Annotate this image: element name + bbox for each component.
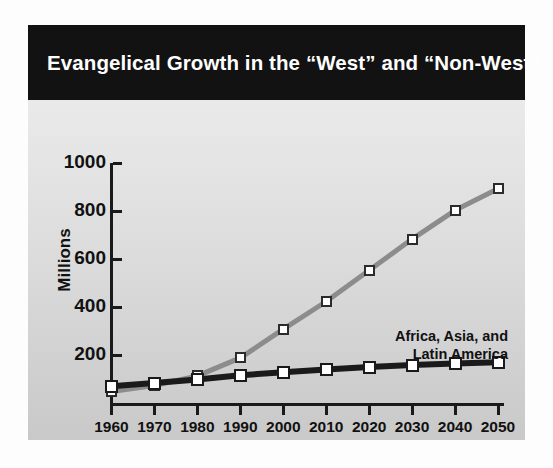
data-point-europe-north-america-pacific [234,369,247,382]
data-point-africa-asia-latin-america [493,183,504,194]
chart-figure: Evangelical Growth in the “West” and “No… [28,25,525,440]
data-point-europe-north-america-pacific [191,373,204,386]
series-lines [28,100,525,440]
data-point-africa-asia-latin-america [450,205,461,216]
data-point-africa-asia-latin-america [364,265,375,276]
chart-title-banner: Evangelical Growth in the “West” and “No… [28,25,525,100]
data-point-europe-north-america-pacific [277,366,290,379]
data-point-europe-north-america-pacific [105,380,118,393]
data-point-africa-asia-latin-america [235,352,246,363]
data-point-europe-north-america-pacific [320,363,333,376]
plot-area: Millions 2004006008001000 19601970198019… [28,100,525,440]
data-point-africa-asia-latin-america [321,296,332,307]
data-point-europe-north-america-pacific [148,377,161,390]
data-point-africa-asia-latin-america [407,234,418,245]
page-title: Evangelical Growth in the “West” and “No… [28,51,541,75]
data-point-africa-asia-latin-america [278,324,289,335]
annotation-africa-asia-latin-america: Africa, Asia, and Latin America [358,328,508,363]
line-europe-north-america-pacific [112,362,499,386]
page-root: Evangelical Growth in the “West” and “No… [0,0,553,468]
